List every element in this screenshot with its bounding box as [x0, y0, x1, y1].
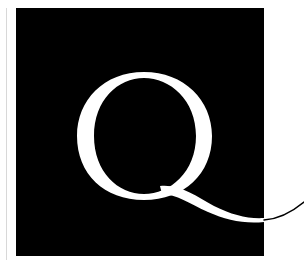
q-logo-icon: [0, 0, 304, 269]
q-tail: [160, 186, 264, 223]
q-bowl: [77, 72, 212, 200]
q-tail-outside: [264, 202, 304, 220]
